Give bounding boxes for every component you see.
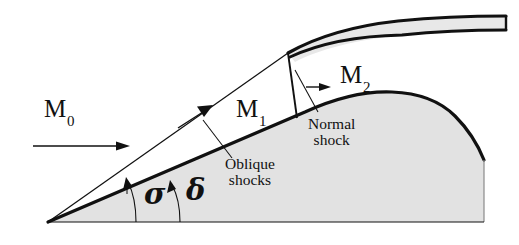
m0-flow-arrow bbox=[33, 142, 130, 151]
m2-label: M2 bbox=[340, 62, 370, 93]
normal-shock-line bbox=[288, 53, 297, 118]
m2-flow-arrow bbox=[306, 83, 331, 91]
normal-shock-label: Normal shock bbox=[308, 116, 355, 149]
oblique-shocks-label-line2: shocks bbox=[225, 172, 275, 188]
normal-shock-label-line2: shock bbox=[308, 132, 355, 148]
normal-shock-label-line1: Normal bbox=[308, 116, 355, 132]
m1-flow-arrow bbox=[178, 105, 213, 128]
figure-canvas: M0 M1 M2 σ δ Oblique shocks Normal shock bbox=[0, 0, 519, 245]
sigma-angle-label: σ bbox=[144, 179, 165, 209]
m1-label: M1 bbox=[236, 96, 266, 127]
delta-angle-label: δ bbox=[186, 175, 205, 205]
oblique-shocks-label-line1: Oblique bbox=[225, 156, 275, 172]
oblique-shocks-label: Oblique shocks bbox=[225, 156, 275, 189]
normal-shock-leader bbox=[295, 70, 318, 112]
m0-label: M0 bbox=[44, 96, 74, 127]
